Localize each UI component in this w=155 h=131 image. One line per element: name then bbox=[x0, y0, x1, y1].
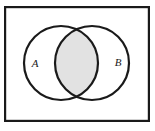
venn-diagram-figure: A B bbox=[0, 0, 155, 131]
set-a-label: A bbox=[31, 57, 39, 69]
venn-diagram-canvas: A B bbox=[0, 0, 155, 131]
set-b-label: B bbox=[115, 56, 122, 68]
